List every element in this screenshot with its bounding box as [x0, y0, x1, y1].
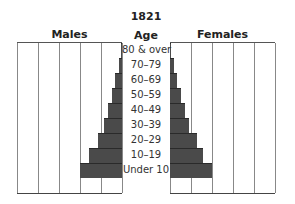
- female-bar: [170, 73, 177, 88]
- female-bar: [170, 58, 174, 73]
- male-bar: [112, 88, 122, 103]
- males-plot-area: [17, 42, 122, 194]
- female-bar: [170, 163, 212, 178]
- male-bar: [89, 148, 122, 163]
- gridline: [233, 43, 234, 193]
- age-group-label: 30–39: [122, 117, 170, 132]
- age-group-label: 80 & over: [122, 42, 170, 57]
- age-group-label: Under 10: [122, 162, 170, 177]
- gridline: [275, 43, 276, 193]
- male-bar: [80, 163, 122, 178]
- males-panel-title: Males: [17, 28, 122, 41]
- gridline: [59, 43, 60, 193]
- gridline: [254, 43, 255, 193]
- chart-title: 1821: [116, 10, 176, 23]
- females-plot-area: [170, 42, 275, 194]
- female-bar: [170, 103, 185, 118]
- age-group-label: 40–49: [122, 102, 170, 117]
- age-group-label: 50–59: [122, 87, 170, 102]
- gridline: [38, 43, 39, 193]
- female-bar: [170, 88, 181, 103]
- female-bar: [170, 118, 189, 133]
- gridline: [17, 43, 18, 193]
- gridline: [212, 43, 213, 193]
- male-bar: [108, 103, 122, 118]
- females-panel-title: Females: [170, 28, 275, 41]
- age-group-label: 10–19: [122, 147, 170, 162]
- male-bar: [104, 118, 122, 133]
- age-group-label: 20–29: [122, 132, 170, 147]
- age-group-label: 70–79: [122, 57, 170, 72]
- age-group-label: 60–69: [122, 72, 170, 87]
- female-bar: [170, 148, 203, 163]
- male-bar: [98, 133, 122, 148]
- age-axis-title: Age: [116, 29, 176, 42]
- female-bar: [170, 133, 197, 148]
- male-bar: [115, 73, 122, 88]
